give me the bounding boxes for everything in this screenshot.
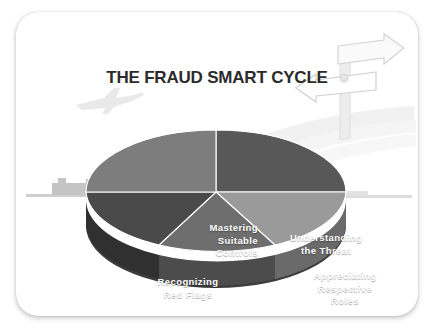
slide-root: THE FRAUD SMART CYCLE bbox=[0, 0, 434, 332]
pie-label-embracing-sound-ethics: Embracing Sound Ethics bbox=[221, 314, 337, 316]
pie-label-mastering-suitable-controls: Mastering Suitable Controls bbox=[172, 222, 258, 260]
fraud-smart-cycle-pie-chart: Mastering Suitable Controls Understandin… bbox=[61, 102, 371, 302]
page-title: THE FRAUD SMART CYCLE bbox=[16, 68, 418, 88]
pie-label-appreciating-respective-roles: Appreciating Respective Roles bbox=[297, 270, 393, 308]
pie-label-recognizing-red-flags: Recognizing Red Flags bbox=[135, 276, 241, 301]
pie-label-understanding-the-threat: Understanding the Threat bbox=[274, 232, 378, 257]
slide-card: THE FRAUD SMART CYCLE bbox=[16, 12, 418, 316]
pie-slice-mastering-suitable-controls[interactable] bbox=[86, 130, 216, 192]
pie-slice-understanding-the-threat[interactable] bbox=[216, 130, 346, 192]
